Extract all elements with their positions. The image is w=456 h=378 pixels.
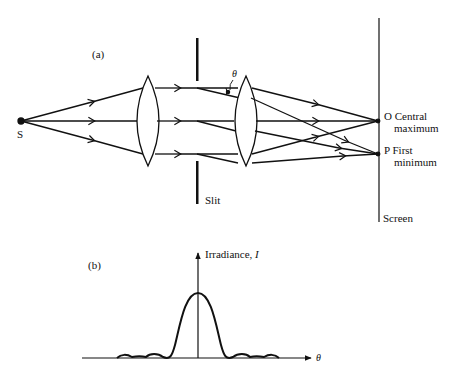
y-axis-label: Irradiance, I bbox=[205, 248, 259, 260]
point-p-line2: minimum bbox=[384, 156, 437, 168]
irradiance-plot bbox=[82, 253, 311, 358]
x-axis-label: θ bbox=[316, 352, 321, 364]
slit-label: Slit bbox=[205, 194, 220, 206]
point-o-line1: Central bbox=[395, 110, 427, 122]
collimating-lens bbox=[137, 76, 159, 166]
diffracted-rays bbox=[197, 88, 240, 163]
y-axis-symbol: I bbox=[255, 248, 259, 260]
point-o-letter: O bbox=[384, 110, 392, 122]
point-o-dot bbox=[376, 119, 380, 123]
point-o-label: O Central maximum bbox=[384, 110, 439, 134]
focusing-lens bbox=[235, 76, 257, 166]
point-o-line2: maximum bbox=[384, 122, 439, 134]
panel-a-label: (a) bbox=[92, 48, 104, 60]
source-label: S bbox=[17, 128, 23, 140]
slit-barrier-bottom bbox=[196, 161, 199, 204]
angle-label: θ bbox=[232, 68, 237, 80]
point-p-letter: P bbox=[384, 144, 390, 156]
slit-barrier-top bbox=[196, 38, 199, 81]
screen-label: Screen bbox=[383, 212, 413, 224]
y-axis-text: Irradiance, bbox=[205, 248, 255, 260]
diffraction-diagram bbox=[0, 0, 456, 378]
panel-b-label: (b) bbox=[88, 259, 101, 271]
point-p-dot bbox=[376, 152, 380, 156]
focused-rays bbox=[251, 88, 378, 163]
point-p-label: P First minimum bbox=[384, 144, 437, 168]
point-p-line1: First bbox=[392, 144, 412, 156]
collimated-rays bbox=[155, 88, 238, 154]
incident-rays bbox=[21, 88, 143, 154]
